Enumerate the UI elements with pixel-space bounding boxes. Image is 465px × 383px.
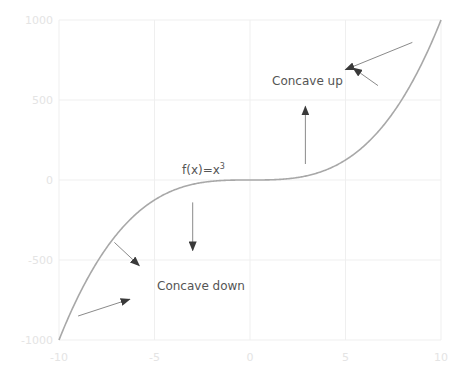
x-tick-label: 0	[247, 351, 254, 364]
x-axis-ticks: -10-50510	[50, 351, 448, 364]
upper-right-arrow-icon	[346, 42, 413, 69]
y-tick-label: 1000	[25, 14, 53, 27]
x-tick-label: -10	[50, 351, 68, 364]
mid-right-arrow-icon	[353, 68, 378, 86]
x-tick-label: 10	[434, 351, 448, 364]
function-label: f(x)=x3	[182, 162, 225, 177]
chart: -10-50510 10005000-500-1000 f(x)=x3 Conc…	[0, 0, 465, 383]
lower-left-arrow-icon	[78, 299, 130, 316]
y-axis-ticks: 10005000-500-1000	[21, 14, 53, 347]
concave-up-label: Concave up	[272, 74, 343, 88]
concave-down-label: Concave down	[157, 279, 245, 293]
x-tick-label: -5	[149, 351, 160, 364]
y-tick-label: 0	[46, 174, 53, 187]
function-label-exponent: 3	[220, 162, 225, 171]
y-tick-label: 500	[32, 94, 53, 107]
x-tick-label: 5	[342, 351, 349, 364]
y-tick-label: -500	[28, 254, 53, 267]
y-tick-label: -1000	[21, 334, 53, 347]
lower-left-diagonal-arrow-icon	[114, 242, 139, 265]
function-label-main: f(x)=x	[182, 163, 220, 177]
